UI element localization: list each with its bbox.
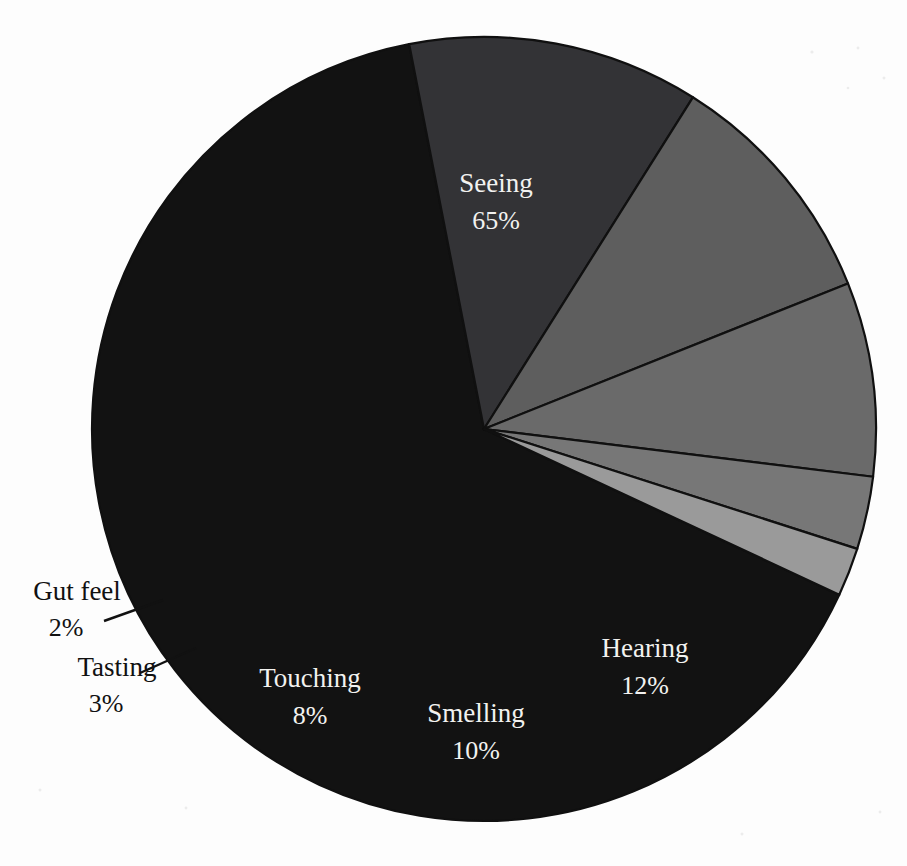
scan-speck <box>847 87 850 90</box>
slice-label-gut-feel-percent: 2% <box>49 613 84 642</box>
scan-speck <box>185 807 188 810</box>
slice-label-gut-feel-name: Gut feel <box>33 576 121 606</box>
slice-label-smelling-name: Smelling <box>427 698 525 728</box>
slice-label-seeing-name: Seeing <box>459 168 533 198</box>
scan-speck <box>741 833 744 836</box>
slice-label-seeing-percent: 65% <box>472 206 520 235</box>
scan-speck <box>879 811 882 814</box>
pie-chart-canvas: Seeing 65% Hearing 12% Smelling 10% Touc… <box>0 0 907 866</box>
scan-speck <box>810 50 813 53</box>
slice-label-tasting-name: Tasting <box>77 652 156 682</box>
slice-label-hearing-percent: 12% <box>621 671 669 700</box>
slice-label-touching-name: Touching <box>259 663 361 693</box>
scan-speck <box>39 789 42 792</box>
slice-label-tasting-percent: 3% <box>89 689 124 718</box>
scan-speck <box>857 47 860 50</box>
pie-chart-figure: Seeing 65% Hearing 12% Smelling 10% Touc… <box>0 0 907 866</box>
slice-label-hearing-name: Hearing <box>602 633 689 663</box>
scan-speck <box>883 77 886 80</box>
slice-label-smelling-percent: 10% <box>452 736 500 765</box>
slice-label-touching-percent: 8% <box>293 701 328 730</box>
